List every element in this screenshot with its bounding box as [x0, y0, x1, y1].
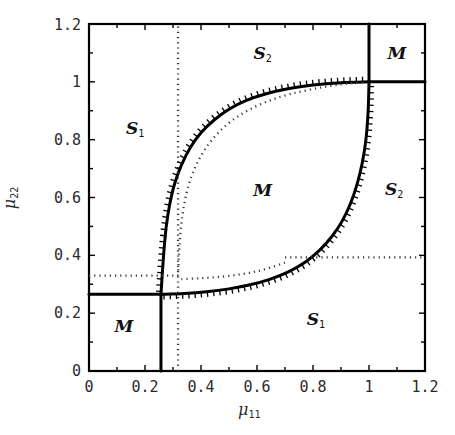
y-axis-title-subscript: 22	[9, 187, 20, 199]
region-label-s1: S1	[126, 118, 144, 139]
hatch-tick	[313, 80, 314, 85]
x-tick-label: 0	[84, 378, 93, 396]
region-label-symbol: S	[126, 118, 138, 138]
region-label-subscript: 2	[266, 52, 272, 63]
hatch-tick	[212, 115, 215, 119]
y-tick-label: 0.8	[48, 131, 81, 149]
y-tick-label: 0.4	[48, 246, 81, 264]
hatch-tick	[325, 244, 329, 247]
hatch-tick	[329, 240, 333, 243]
x-axis-title: μ11	[238, 400, 260, 420]
phase-diagram-figure: 0 0.2 0.4 0.6 0.8 1 1.2 0 0.2 0.4 0.6 0.…	[0, 0, 455, 435]
hatch-tick	[300, 81, 301, 86]
series-dotted-upper-curve	[178, 82, 365, 276]
hatch-tick	[365, 148, 370, 149]
region-label-s1: S1	[307, 308, 325, 329]
y-tick-label: 1.2	[48, 16, 81, 34]
hatch-tick	[207, 119, 210, 123]
hatch-tick	[226, 289, 227, 294]
region-label-subscript: 1	[319, 318, 325, 329]
x-axis-title-subscript: 11	[248, 409, 260, 420]
y-axis-title-symbol: μ	[0, 199, 19, 209]
y-tick-label: 0	[48, 362, 81, 380]
hatch-tick	[163, 210, 168, 211]
x-tick-label: 0.8	[299, 378, 326, 396]
hatch-tick	[202, 124, 206, 128]
y-tick-label: 0.2	[48, 304, 81, 322]
region-label-symbol: M	[253, 180, 272, 200]
y-axis-title: μ22	[0, 187, 20, 209]
hatch-tick	[364, 154, 369, 155]
hatch-tick	[213, 291, 214, 296]
hatch-tick	[232, 288, 233, 293]
hatch-tick	[160, 235, 165, 236]
x-tick-label: 0.2	[131, 378, 158, 396]
hatch-tick	[162, 217, 167, 218]
region-label-symbol: M	[388, 43, 407, 63]
hatch-tick	[312, 257, 315, 261]
hatch-tick	[366, 142, 371, 143]
region-label-symbol: S	[307, 308, 319, 328]
x-axis-title-symbol: μ	[238, 400, 248, 419]
hatch-tick	[319, 79, 320, 84]
hatch-tick	[220, 290, 221, 295]
y-tick-label: 1	[48, 73, 81, 91]
hatch-tick	[207, 292, 208, 297]
region-label-s2: S2	[385, 178, 403, 199]
hatch-tick	[306, 81, 307, 86]
y-tick-label: 0.6	[48, 189, 81, 207]
region-label-symbol: M	[115, 316, 134, 336]
hatch-tick	[321, 249, 325, 253]
region-label-m: M	[115, 316, 134, 336]
series-dotted-lower-curve	[181, 263, 285, 279]
hatch-tick	[366, 136, 371, 137]
region-label-m: M	[388, 43, 407, 63]
region-label-subscript: 2	[397, 188, 403, 199]
x-tick-label: 0.6	[243, 378, 270, 396]
hatch-tick	[162, 223, 167, 224]
region-label-subscript: 1	[138, 128, 144, 139]
x-tick-label: 1	[364, 378, 373, 396]
hatch-tick	[161, 229, 166, 230]
x-tick-label: 0.4	[187, 378, 214, 396]
x-tick-label: 1.2	[411, 378, 438, 396]
region-label-m: M	[253, 180, 272, 200]
hatch-tick	[294, 82, 295, 87]
region-label-symbol: S	[253, 42, 265, 62]
region-label-s2: S2	[253, 42, 271, 63]
hatch-tick	[198, 129, 202, 132]
region-label-symbol: S	[385, 178, 397, 198]
